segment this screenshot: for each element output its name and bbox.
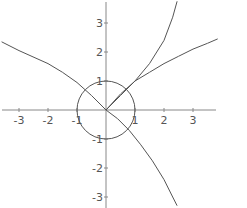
y-tick-label: -1 [92, 133, 103, 146]
x-tick-label: 2 [161, 114, 168, 127]
y-tick-label: 3 [96, 17, 103, 30]
steep-branch [106, 1, 177, 110]
y-tick-label: 2 [96, 46, 103, 59]
x-tick-label: -3 [14, 114, 25, 127]
y-tick-label: -3 [92, 191, 103, 204]
x-tick-label: 3 [190, 114, 197, 127]
plot-canvas: -3-2-1123-3-2-1123 [0, 0, 247, 208]
y-tick-label: -2 [92, 162, 103, 175]
curve-through-origin [2, 42, 178, 206]
plot-curves [2, 1, 218, 205]
x-tick-label: -2 [43, 114, 54, 127]
shallow-branch [106, 39, 218, 110]
